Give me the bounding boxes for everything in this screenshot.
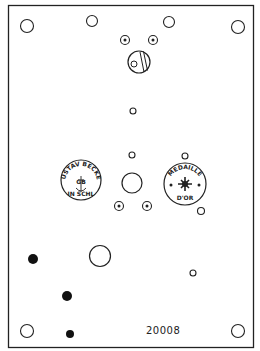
hole-center-mid — [129, 152, 135, 158]
plate-outline — [9, 6, 254, 348]
backplate-diagram: GUSTAV BECKER GB IN SCHL MEDAILLE D'OR 2… — [0, 0, 260, 351]
pillar-hole-top-mid-right — [164, 17, 175, 28]
serial-number: 20008 — [146, 325, 180, 336]
pillar-hole-top-left — [21, 20, 34, 33]
hole-center-upper — [130, 108, 136, 114]
small-hole-lower-right — [190, 270, 196, 276]
svg-text:IN SCHL: IN SCHL — [68, 190, 95, 197]
svg-text:MEDAILLE: MEDAILLE — [166, 163, 204, 177]
pillar-hole-top-right — [232, 21, 245, 34]
maker-stamp-gustav-becker: GUSTAV BECKER GB IN SCHL — [0, 0, 103, 200]
svg-text:GUSTAV BECKER: GUSTAV BECKER — [0, 0, 103, 180]
bushing-lower-right-dot — [146, 205, 149, 208]
bushing-top-right-dot — [152, 39, 155, 42]
pillar-hole-bottom-left — [21, 325, 34, 338]
pillar-hole-bottom-right — [232, 325, 245, 338]
filled-pin-bottom — [66, 330, 74, 338]
adjuster-screw — [128, 51, 150, 73]
medal-stamp-medaille-dor: MEDAILLE D'OR — [164, 163, 206, 205]
svg-text:D'OR: D'OR — [177, 194, 194, 201]
filled-pin-left — [28, 254, 38, 264]
large-hole-lower — [90, 246, 111, 267]
hole-right-of-medal — [198, 208, 205, 215]
filled-pin-middle — [62, 291, 72, 301]
pillar-hole-top-mid-left — [87, 16, 98, 27]
bushing-lower-left-dot — [118, 205, 121, 208]
center-arbor-hole — [122, 173, 142, 193]
hole-above-medal — [182, 153, 188, 159]
bushing-top-left-dot — [124, 39, 127, 42]
